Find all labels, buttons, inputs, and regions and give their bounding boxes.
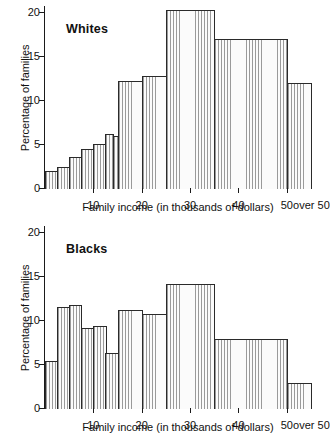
histogram-bar: [287, 83, 312, 189]
histogram-bar: [142, 76, 167, 189]
y-axis-label-container-blacks: Percentage of families: [2, 224, 18, 412]
y-tick-label: 0: [34, 402, 40, 414]
histogram-bar: [142, 314, 167, 409]
x-tick-mark: [287, 188, 288, 193]
y-tick-label: 0: [34, 182, 40, 194]
bars-group-whites: [45, 13, 311, 189]
x-tick-mark: [142, 188, 143, 193]
y-axis-label-container-whites: Percentage of families: [2, 4, 18, 192]
y-tick-label: 20: [28, 6, 40, 18]
x-tick-mark: [142, 408, 143, 413]
y-tick-label: 5: [34, 358, 40, 370]
x-tick-mark: [190, 408, 191, 413]
x-tick-mark: [238, 188, 239, 193]
histogram-bar: [214, 39, 288, 189]
histogram-panel-whites: Percentage of families 05101520 10203040…: [0, 0, 323, 219]
series-title-whites: Whites: [66, 22, 108, 36]
histogram-panel-blacks: Percentage of families 05101520 10203040…: [0, 220, 323, 439]
y-tick-label: 10: [28, 94, 40, 106]
y-tick-label: 20: [28, 226, 40, 238]
x-tick-mark: [238, 408, 239, 413]
y-tick-label: 5: [34, 138, 40, 150]
bars-group-blacks: [45, 233, 311, 409]
x-tick-mark: [93, 188, 94, 193]
histogram-bar: [214, 339, 288, 409]
x-tick-mark: [93, 408, 94, 413]
x-axis-label-whites: Family income (in thousands of dollars): [44, 201, 312, 213]
y-tick-label: 10: [28, 314, 40, 326]
series-title-blacks: Blacks: [66, 242, 108, 256]
histogram-bar: [118, 310, 143, 409]
histogram-bar: [118, 81, 143, 189]
y-tick-label: 15: [28, 270, 40, 282]
y-tick-label: 15: [28, 50, 40, 62]
histogram-bar: [166, 10, 215, 189]
x-axis-label-blacks: Family income (in thousands of dollars): [44, 421, 312, 433]
x-tick-mark: [287, 408, 288, 413]
x-tick-mark: [190, 188, 191, 193]
histogram-bar: [166, 284, 215, 409]
histogram-bar: [287, 383, 312, 409]
